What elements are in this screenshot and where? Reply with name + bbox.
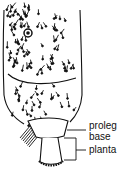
seta-base bbox=[18, 43, 20, 45]
seta-base bbox=[26, 67, 28, 69]
seta-base bbox=[11, 29, 13, 31]
seta-base bbox=[16, 53, 18, 55]
label-planta: planta bbox=[89, 144, 116, 155]
label-proleg: proleg bbox=[89, 120, 117, 131]
seta-base bbox=[10, 10, 12, 12]
seta-base bbox=[13, 34, 15, 36]
seta-base bbox=[42, 45, 44, 47]
seta-base bbox=[62, 37, 64, 39]
segment-fold bbox=[8, 74, 76, 84]
seta-base bbox=[21, 70, 23, 72]
seta-base bbox=[54, 48, 56, 50]
seta-base bbox=[68, 62, 70, 64]
seta-base bbox=[26, 114, 28, 116]
spiracle bbox=[24, 29, 32, 37]
seta-base bbox=[15, 93, 17, 95]
seta-base bbox=[23, 25, 25, 27]
seta-base bbox=[50, 58, 52, 60]
seta-base bbox=[73, 109, 75, 111]
seta-base bbox=[41, 72, 43, 74]
seta-base bbox=[17, 49, 19, 51]
proleg-seta bbox=[20, 126, 30, 138]
planta-bracket bbox=[64, 138, 86, 160]
proleg-seta bbox=[22, 128, 32, 140]
seta-base bbox=[28, 52, 30, 54]
seta-base bbox=[59, 18, 61, 20]
seta-base bbox=[21, 39, 23, 41]
seta-base bbox=[17, 14, 19, 16]
seta-base bbox=[53, 18, 55, 20]
seta-base bbox=[39, 106, 41, 108]
seta-base bbox=[40, 69, 42, 71]
seta-base bbox=[66, 70, 68, 72]
seta-base bbox=[23, 55, 25, 57]
seta-base bbox=[53, 28, 55, 30]
seta-base bbox=[33, 104, 35, 106]
seta-base bbox=[37, 74, 39, 76]
seta-base bbox=[25, 16, 27, 18]
seta-base bbox=[8, 59, 10, 61]
seta-base bbox=[30, 97, 32, 99]
seta-base bbox=[6, 46, 8, 48]
seta-base bbox=[30, 67, 32, 69]
seta-base bbox=[52, 97, 54, 99]
seta-base bbox=[24, 6, 26, 8]
seta-base bbox=[45, 113, 47, 115]
seta-base bbox=[30, 115, 32, 117]
seta-base bbox=[57, 49, 59, 51]
seta-base bbox=[42, 58, 44, 60]
seta-base bbox=[12, 15, 14, 17]
seta-base bbox=[15, 41, 17, 43]
seta-base bbox=[35, 88, 37, 90]
seta-base bbox=[41, 27, 43, 29]
seta-base bbox=[67, 98, 69, 100]
seta-base bbox=[73, 67, 75, 69]
proleg-seta bbox=[23, 129, 33, 141]
label-base: base bbox=[89, 131, 111, 142]
proleg-base-outline bbox=[28, 118, 68, 138]
seta-base bbox=[18, 95, 20, 97]
seta-base bbox=[60, 32, 62, 34]
seta-base bbox=[22, 109, 24, 111]
seta-base bbox=[45, 25, 47, 27]
seta-base bbox=[14, 28, 16, 30]
seta-base bbox=[53, 85, 55, 87]
seta-base bbox=[26, 102, 28, 104]
seta-base bbox=[52, 63, 54, 65]
seta-base bbox=[28, 26, 30, 28]
seta-base bbox=[37, 94, 39, 96]
seta-base bbox=[57, 95, 59, 97]
seta-base bbox=[64, 20, 66, 22]
seta-base bbox=[13, 65, 15, 67]
planta-outline bbox=[40, 138, 62, 164]
seta-base bbox=[48, 66, 50, 68]
seta-base bbox=[61, 106, 63, 108]
seta-base bbox=[9, 24, 11, 26]
seta-base bbox=[27, 54, 29, 56]
seta-base bbox=[41, 93, 43, 95]
seta-base bbox=[55, 39, 57, 41]
seta-base bbox=[6, 9, 8, 11]
seta-base bbox=[49, 68, 51, 70]
seta-base bbox=[56, 29, 58, 31]
seta-base bbox=[16, 62, 18, 64]
leader-lines bbox=[64, 130, 86, 160]
proleg-seta bbox=[25, 131, 35, 143]
seta-base bbox=[30, 62, 32, 64]
seta-base bbox=[38, 13, 40, 15]
seta-base bbox=[19, 18, 21, 20]
seta-base bbox=[9, 16, 11, 18]
seta-base bbox=[31, 110, 33, 112]
seta-base bbox=[63, 63, 65, 65]
seta-base bbox=[28, 9, 30, 11]
seta-base bbox=[37, 26, 39, 28]
proleg bbox=[28, 118, 68, 166]
seta-base bbox=[11, 114, 13, 116]
seta-base bbox=[68, 105, 70, 107]
seta-base bbox=[18, 99, 20, 101]
seta-base bbox=[21, 26, 23, 28]
seta-base bbox=[70, 67, 72, 69]
seta-base bbox=[10, 52, 12, 54]
seta-base bbox=[28, 66, 30, 68]
seta-base bbox=[64, 67, 66, 69]
